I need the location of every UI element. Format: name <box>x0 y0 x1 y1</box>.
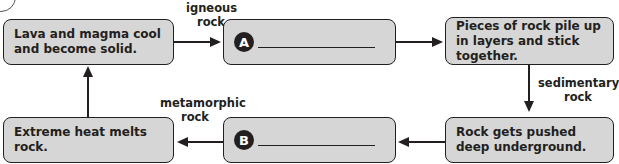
arrow-pushed-to-b-line <box>407 141 445 143</box>
box-extreme-heat-text: Extreme heat melts rock. <box>14 125 163 155</box>
arrow-right-icon <box>210 37 221 47</box>
arrow-right-icon <box>432 37 443 47</box>
box-b-blank[interactable]: B <box>223 117 396 163</box>
arrow-left-icon <box>398 137 409 147</box>
step-number-circle <box>0 0 16 12</box>
box-a-blank[interactable]: A <box>223 19 396 65</box>
arrow-heat-to-lava-line <box>87 76 89 117</box>
badge-a: A <box>234 32 254 52</box>
box-lava-cools: Lava and magma cool and become solid. <box>3 19 174 65</box>
answer-blank-a[interactable] <box>258 37 375 48</box>
badge-b: B <box>234 130 254 150</box>
label-sedimentary-rock: sedimentary rock <box>538 76 618 104</box>
arrow-pieces-to-pushed-line <box>528 65 530 103</box>
arrow-lava-to-a-line <box>174 41 212 43</box>
box-lava-cools-text: Lava and magma cool and become solid. <box>14 27 163 57</box>
arrow-left-icon <box>177 137 188 147</box>
arrow-a-to-pieces-line <box>396 41 434 43</box>
box-pieces-pile-text: Pieces of rock pile up in layers and sti… <box>456 19 603 64</box>
arrow-up-icon <box>83 66 93 77</box>
box-pieces-pile: Pieces of rock pile up in layers and sti… <box>445 17 614 65</box>
box-rock-pushed: Rock gets pushed deep underground. <box>445 117 614 163</box>
answer-blank-b[interactable] <box>258 135 375 146</box>
box-rock-pushed-text: Rock gets pushed deep underground. <box>456 125 603 155</box>
arrow-down-icon <box>524 101 534 112</box>
arrow-b-to-heat-line <box>186 141 223 143</box>
box-extreme-heat: Extreme heat melts rock. <box>3 117 174 163</box>
